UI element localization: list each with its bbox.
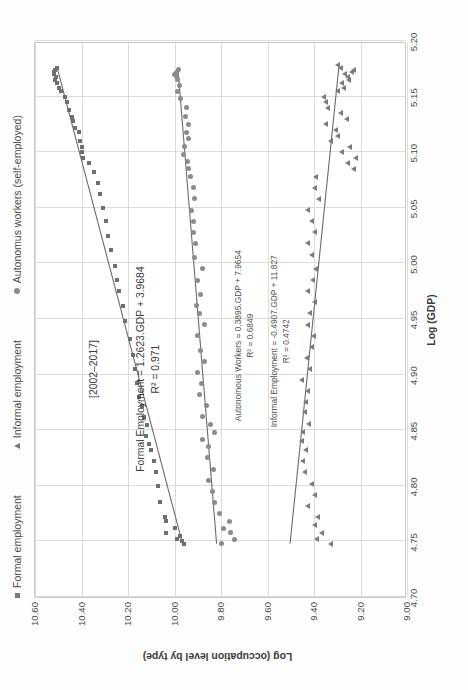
data-point — [101, 206, 105, 210]
data-point — [305, 207, 310, 213]
data-point — [353, 155, 358, 161]
data-point — [210, 489, 215, 494]
data-point — [312, 229, 317, 235]
data-point — [305, 388, 310, 394]
data-point — [182, 144, 187, 149]
data-point — [328, 138, 333, 144]
chart-page: Formal employment Informal employment Au… — [0, 0, 468, 690]
data-point — [192, 255, 197, 260]
data-point — [303, 399, 308, 405]
data-point — [178, 534, 182, 538]
data-point — [194, 303, 199, 308]
data-point — [65, 100, 69, 104]
data-point — [312, 492, 317, 498]
data-point — [206, 444, 211, 449]
data-point — [71, 119, 75, 123]
data-point — [181, 152, 186, 157]
data-point — [180, 539, 184, 543]
data-point — [178, 96, 183, 101]
data-point — [309, 481, 314, 487]
data-point — [77, 130, 81, 134]
data-point — [300, 458, 305, 464]
data-point — [55, 66, 59, 70]
data-point — [305, 503, 310, 509]
data-point — [328, 541, 333, 547]
data-point — [347, 144, 352, 150]
data-point — [303, 447, 308, 453]
data-point — [306, 421, 311, 427]
x-tick-label: 5.05 — [408, 199, 419, 218]
data-point — [87, 161, 91, 165]
data-point — [309, 344, 314, 350]
y-tick-label: 10.00 — [168, 602, 179, 626]
data-point — [228, 530, 233, 535]
data-point — [321, 94, 326, 100]
data-point — [212, 500, 217, 505]
square-marker-icon — [15, 593, 20, 598]
autonomous-workers-equation: Autonomous Workers = 0.3895.GDP + 7.9654… — [232, 250, 256, 421]
data-point — [80, 150, 84, 154]
x-tick-label: 5.00 — [408, 255, 419, 274]
data-point — [309, 218, 314, 224]
data-point — [186, 122, 191, 127]
equation-text: Informal Employment = -0.4907.GDP + 11.8… — [268, 255, 280, 427]
gridline-vertical — [35, 40, 405, 41]
data-point — [315, 514, 320, 520]
data-point — [232, 537, 237, 542]
data-point — [183, 114, 188, 119]
triangle-marker-icon — [14, 443, 20, 449]
data-point — [191, 185, 196, 190]
data-point — [299, 377, 304, 383]
period-note: [2002–2017] — [87, 340, 102, 398]
data-point — [200, 437, 205, 442]
data-point — [323, 121, 328, 127]
legend-item-formal-employment[interactable]: Formal employment — [11, 495, 23, 598]
x-tick-label: 4.80 — [408, 477, 419, 496]
data-point — [195, 370, 200, 375]
data-point — [345, 160, 350, 166]
data-point — [195, 278, 200, 283]
data-point — [115, 278, 119, 282]
data-point — [195, 333, 200, 338]
data-point — [177, 83, 182, 88]
formal-employment-equation: Formal Employment = 1.2623.GDP + 3.9684 … — [133, 266, 163, 471]
data-point — [193, 241, 198, 246]
data-point — [313, 266, 318, 272]
data-point — [191, 230, 196, 235]
data-point — [338, 110, 343, 116]
data-point — [304, 355, 309, 361]
data-point — [325, 105, 330, 111]
data-point — [164, 531, 168, 535]
data-point — [78, 139, 82, 143]
data-point — [81, 156, 85, 160]
y-axis-ticks: 9.009.209.409.609.8010.0010.2010.4010.60 — [34, 602, 406, 652]
data-point — [202, 322, 207, 327]
data-point — [98, 192, 102, 196]
data-point — [57, 86, 61, 90]
data-point — [310, 277, 315, 283]
y-tick-label: 9.40 — [308, 602, 319, 621]
data-point — [335, 88, 340, 94]
data-point — [199, 381, 204, 386]
x-axis-ticks: 4.704.754.804.854.904.955.005.055.105.15… — [408, 42, 422, 598]
x-tick-label: 5.10 — [408, 144, 419, 163]
data-point — [67, 108, 71, 112]
legend-item-informal-employment[interactable]: Informal employment — [11, 340, 23, 449]
data-point — [305, 322, 310, 328]
data-point — [200, 414, 205, 419]
data-point — [227, 519, 232, 524]
y-tick-label: 9.60 — [261, 602, 272, 621]
data-point — [109, 248, 113, 252]
data-point — [92, 170, 96, 174]
legend-item-autonomous-workers[interactable]: Autonomus workers (self-employed) — [11, 115, 23, 294]
data-point — [106, 234, 110, 238]
data-point — [312, 299, 317, 305]
data-point — [312, 185, 317, 191]
data-point — [342, 71, 347, 77]
data-point — [217, 511, 222, 516]
data-point — [219, 541, 224, 546]
data-point — [335, 133, 340, 139]
data-point — [211, 467, 216, 472]
data-point — [70, 115, 74, 119]
data-point — [156, 484, 160, 488]
